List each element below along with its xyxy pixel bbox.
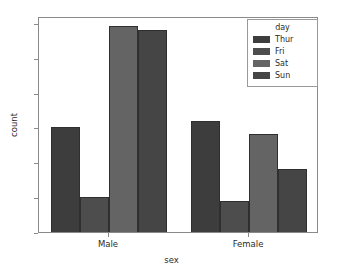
bar-female-fri	[220, 201, 249, 232]
legend-swatch-fri	[253, 48, 270, 55]
x-tick-mark	[248, 233, 249, 237]
legend-item-sat: Sat	[253, 58, 312, 69]
legend-item-sun: Sun	[253, 70, 312, 81]
legend-entries: ThurFriSatSun	[253, 34, 312, 81]
y-tick-mark	[34, 233, 38, 234]
bar-male-sun	[138, 30, 167, 232]
x-tick-label: Female	[233, 239, 264, 249]
y-axis-label: count	[9, 113, 19, 137]
bar-male-thur	[51, 127, 80, 232]
x-tick-mark	[108, 233, 109, 237]
legend-item-thur: Thur	[253, 34, 312, 45]
legend-swatch-sat	[253, 60, 270, 67]
legend-item-fri: Fri	[253, 46, 312, 57]
legend-swatch-sun	[253, 72, 270, 79]
figure-canvas: count 0102030405060 MaleFemale sex day T…	[0, 0, 343, 275]
legend-label-sat: Sat	[275, 59, 288, 69]
bar-male-sat	[109, 26, 138, 232]
bar-female-thur	[191, 121, 220, 232]
legend-label-fri: Fri	[275, 47, 285, 57]
legend-swatch-thur	[253, 36, 270, 43]
x-tick-label: Male	[98, 239, 118, 249]
legend-label-sun: Sun	[275, 71, 290, 81]
x-axis-label: sex	[0, 255, 343, 265]
bar-female-sun	[278, 169, 307, 232]
legend-title: day	[253, 23, 312, 32]
bar-male-fri	[80, 197, 109, 232]
bar-female-sat	[249, 134, 278, 232]
legend-label-thur: Thur	[275, 35, 293, 45]
legend: day ThurFriSatSun	[247, 19, 318, 87]
